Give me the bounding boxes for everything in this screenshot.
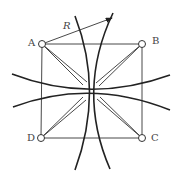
tangent-b-1 xyxy=(96,44,142,83)
point-a-circle xyxy=(39,41,46,48)
tangent-a-2 xyxy=(42,44,87,82)
arc-right xyxy=(94,13,113,169)
radius-label: R xyxy=(62,20,71,31)
label-b: B xyxy=(152,35,159,46)
label-a: A xyxy=(27,37,36,48)
tangent-d-2 xyxy=(41,100,86,138)
geometry-diagram: R A B C D xyxy=(0,0,176,175)
tangent-a-1 xyxy=(42,44,83,85)
point-b-circle xyxy=(139,41,146,48)
tangent-c-2 xyxy=(100,97,142,138)
tangent-c-1 xyxy=(97,99,142,138)
point-d-circle xyxy=(38,135,45,142)
side-da xyxy=(41,44,42,138)
label-d: D xyxy=(27,132,35,143)
label-c: C xyxy=(151,132,159,143)
arc-top xyxy=(12,74,170,89)
tangent-d-1 xyxy=(41,97,83,138)
point-c-circle xyxy=(139,135,146,142)
tangent-b-2 xyxy=(99,44,142,86)
arc-bottom xyxy=(13,93,170,110)
